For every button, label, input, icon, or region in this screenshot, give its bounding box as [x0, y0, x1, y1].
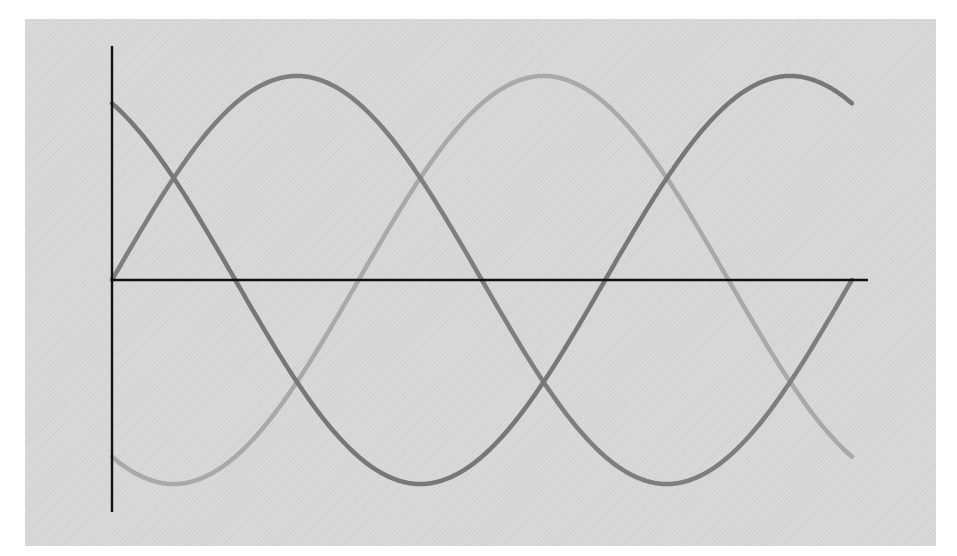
waveform-chart	[0, 0, 957, 556]
figure-page	[0, 0, 957, 556]
